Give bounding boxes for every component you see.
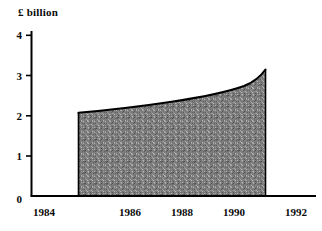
- chart-plot-area: [0, 0, 322, 231]
- y-tick-label-0: 0: [6, 193, 22, 205]
- x-tick-label-1986: 1986: [107, 206, 153, 218]
- y-tick-label-4: 4: [6, 29, 22, 41]
- x-tick-label-1990: 1990: [211, 206, 257, 218]
- area-series-gbp-billion: [79, 70, 266, 197]
- y-tick-label-3: 3: [6, 70, 22, 82]
- y-tick-label-2: 2: [6, 110, 22, 122]
- area-chart: £ billion: [0, 0, 322, 231]
- x-tick-label-1984: 1984: [21, 206, 67, 218]
- x-tick-label-1992: 1992: [273, 206, 319, 218]
- y-tick-label-1: 1: [6, 150, 22, 162]
- x-tick-label-1988: 1988: [159, 206, 205, 218]
